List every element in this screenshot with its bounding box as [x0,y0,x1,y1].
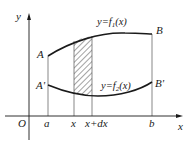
x-axis-arrow-icon [176,114,183,118]
x-axis-label: x [177,120,183,132]
upper-curve-f1 [48,33,152,56]
point-label-B-prime: B' [155,77,165,89]
vertical-guides [48,34,152,116]
lower-curve-equation: y=f2(x) [100,80,131,93]
tick-label-x: x [70,117,76,129]
tick-label-x-plus-dx: x+dx [84,117,108,129]
lower-curve-f2 [48,82,152,96]
tick-label-a: a [44,117,50,129]
tick-label-b: b [149,117,155,129]
y-axis-label: y [15,10,21,22]
point-label-A-prime: A' [35,79,46,91]
point-label-B: B [156,24,163,36]
area-between-curves-diagram: y x O a x x+dx b A A' B B' y=f1(x) y=f2(… [0,0,185,151]
origin-label: O [18,117,26,129]
y-axis-arrow-icon [27,13,31,20]
upper-curve-equation: y=f1(x) [96,16,127,29]
point-label-A: A [36,48,44,60]
shaded-strip [74,30,92,100]
